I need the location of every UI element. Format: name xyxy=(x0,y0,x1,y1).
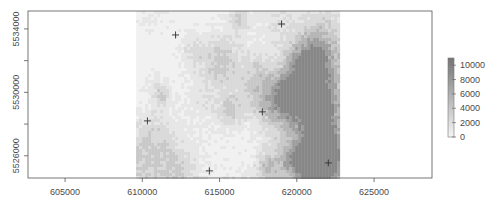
raster-cell xyxy=(232,41,235,44)
raster-cell xyxy=(241,80,244,83)
raster-cell xyxy=(232,71,235,74)
raster-cell xyxy=(298,59,301,62)
raster-cell xyxy=(235,128,238,131)
raster-cell xyxy=(289,47,292,50)
raster-cell xyxy=(256,74,259,77)
raster-cell xyxy=(319,56,322,59)
raster-cell xyxy=(298,116,301,119)
raster-cell xyxy=(157,122,160,125)
raster-cell xyxy=(334,77,337,80)
raster-cell xyxy=(160,143,163,146)
raster-cell xyxy=(331,113,334,116)
raster-cell xyxy=(184,29,187,32)
raster-cell xyxy=(196,161,199,164)
raster-cell xyxy=(283,137,286,140)
raster-cell xyxy=(244,92,247,95)
raster-cell xyxy=(277,137,280,140)
raster-cell xyxy=(226,116,229,119)
raster-cell xyxy=(217,74,220,77)
raster-cell xyxy=(220,38,223,41)
raster-cell xyxy=(187,176,190,179)
raster-cell xyxy=(253,20,256,23)
raster-cell xyxy=(271,77,274,80)
raster-cell xyxy=(193,131,196,134)
raster-cell xyxy=(334,116,337,119)
raster-cell xyxy=(256,59,259,62)
raster-cell xyxy=(307,83,310,86)
raster-cell xyxy=(250,137,253,140)
raster-cell xyxy=(232,83,235,86)
raster-cell xyxy=(298,140,301,143)
raster-cell xyxy=(298,14,301,17)
raster-cell xyxy=(235,113,238,116)
raster-cell xyxy=(292,101,295,104)
raster-cell xyxy=(193,32,196,35)
raster-cell xyxy=(328,53,331,56)
raster-cell xyxy=(310,11,313,14)
raster-cell xyxy=(217,47,220,50)
raster-cell xyxy=(157,86,160,89)
raster-cell xyxy=(226,26,229,29)
raster-cell xyxy=(199,50,202,53)
raster-cell xyxy=(259,35,262,38)
raster-cell xyxy=(220,65,223,68)
raster-cell xyxy=(229,26,232,29)
raster-cell xyxy=(232,17,235,20)
raster-cell xyxy=(307,86,310,89)
raster-cell xyxy=(232,56,235,59)
raster-cell xyxy=(307,146,310,149)
raster-cell xyxy=(289,59,292,62)
raster-cell xyxy=(322,29,325,32)
raster-cell xyxy=(226,32,229,35)
raster-cell xyxy=(250,65,253,68)
raster-cell xyxy=(325,107,328,110)
raster-cell xyxy=(199,134,202,137)
raster-cell xyxy=(292,62,295,65)
raster-cell xyxy=(271,98,274,101)
raster-cell xyxy=(334,23,337,26)
raster-cell xyxy=(295,92,298,95)
raster-cell xyxy=(142,146,145,149)
raster-cell xyxy=(310,17,313,20)
raster-cell xyxy=(250,92,253,95)
raster-cell xyxy=(283,152,286,155)
raster-cell xyxy=(301,143,304,146)
raster-cell xyxy=(181,158,184,161)
raster-cell xyxy=(313,152,316,155)
raster-cell xyxy=(154,176,157,179)
raster-cell xyxy=(220,104,223,107)
raster-cell xyxy=(295,122,298,125)
raster-cell xyxy=(241,101,244,104)
raster-cell xyxy=(301,173,304,176)
raster-cell xyxy=(268,77,271,80)
raster-cell xyxy=(145,152,148,155)
raster-cell xyxy=(274,98,277,101)
raster-cell xyxy=(205,131,208,134)
raster-cell xyxy=(157,110,160,113)
raster-cell xyxy=(304,104,307,107)
raster-cell xyxy=(256,20,259,23)
legend-tick-label: 0 xyxy=(460,132,465,142)
raster-cell xyxy=(274,59,277,62)
raster-cell xyxy=(166,164,169,167)
raster-cell xyxy=(139,170,142,173)
raster-cell xyxy=(262,47,265,50)
raster-cell xyxy=(226,92,229,95)
raster-cell xyxy=(301,83,304,86)
raster-cell xyxy=(262,26,265,29)
raster-cell xyxy=(304,32,307,35)
raster-cell xyxy=(301,113,304,116)
raster-cell xyxy=(277,155,280,158)
raster-cell xyxy=(289,77,292,80)
raster-cell xyxy=(319,164,322,167)
raster-cell xyxy=(160,128,163,131)
raster-cell xyxy=(190,128,193,131)
raster-cell xyxy=(154,71,157,74)
raster-cell xyxy=(262,89,265,92)
raster-cell xyxy=(307,104,310,107)
raster-cell xyxy=(175,173,178,176)
raster-cell xyxy=(223,56,226,59)
raster-cell xyxy=(172,137,175,140)
raster-cell xyxy=(175,116,178,119)
raster-cell xyxy=(190,119,193,122)
